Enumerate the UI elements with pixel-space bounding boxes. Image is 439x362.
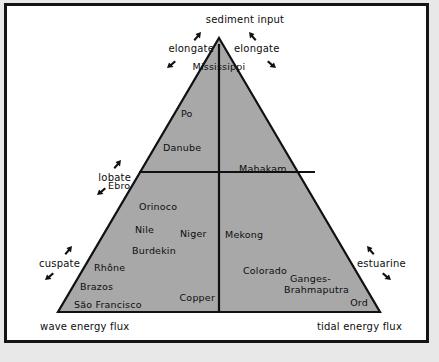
arrow-up-right-elongate-left [191,30,203,42]
morphology-label-estuarine: estuarine [357,258,406,269]
arrow-down-right-elongate-right [266,58,278,70]
river-label-ganges-brahmaputra-line2: Brahmaputra [284,285,349,296]
axis-label-wave-energy-flux: wave energy flux [40,321,129,332]
ternary-plot [0,0,439,362]
river-label-rhone: Rhône [94,262,125,273]
arrow-up-left-elongate-right [247,30,259,42]
arrow-down-left-elongate-left [165,58,177,70]
figure-container: sediment input wave energy flux tidal en… [0,0,439,362]
axis-label-tidal-energy-flux: tidal energy flux [317,321,402,332]
morphology-label-elongate-right: elongate [234,43,280,54]
river-label-burdekin: Burdekin [132,245,176,256]
river-label-nile: Nile [135,224,154,235]
arrow-down-right-estuarine [381,270,393,282]
vertex-label-sediment-input: sediment input [206,14,284,25]
arrow-up-right-lobate [111,158,123,170]
river-label-mississippi: Mississippi [193,61,246,72]
river-label-orinoco: Orinoco [139,201,177,212]
ternary-triangle-svg [0,0,439,362]
arrow-down-left-lobate [95,185,107,197]
river-label-brazos: Brazos [80,281,113,292]
morphology-label-cuspate: cuspate [39,258,80,269]
morphology-label-elongate-left: elongate [168,43,214,54]
river-label-danube: Danube [163,142,201,153]
river-label-mekong: Mekong [225,229,263,240]
river-label-ganges-brahmaputra-line1: Ganges- [290,274,331,285]
river-label-niger: Niger [180,228,207,239]
arrow-down-left-cuspate [43,270,55,282]
river-label-sao-francisco: São Francisco [74,299,142,310]
river-label-ord: Ord [350,297,368,308]
river-label-copper: Copper [180,292,215,303]
arrow-up-left-estuarine [365,244,377,256]
arrow-up-right-cuspate [62,244,74,256]
river-label-ebro: Ebro [108,180,130,191]
river-label-colorado: Colorado [243,265,287,276]
river-label-po: Po [181,108,193,119]
river-label-mahakam: Mahakam [239,163,287,174]
